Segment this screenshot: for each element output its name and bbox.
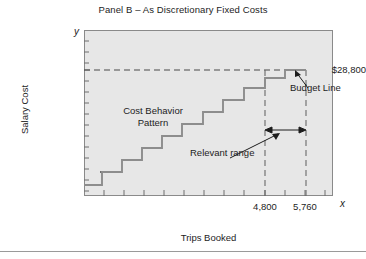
y-axis-ticks [84, 41, 90, 191]
cost-behavior-pattern-label: Cost Behavior Pattern [110, 105, 196, 128]
y-axis-value-label: $28,800 [294, 64, 366, 75]
relevant-range-label: Relevant range [190, 147, 254, 159]
x-axis-value-label-lower: 4,800 [245, 201, 285, 212]
bottom-divider [0, 251, 366, 252]
y-axis-title: Salary Cost [19, 65, 30, 155]
chart-figure: Panel B – As Discretionary Fixed Costs [0, 0, 366, 259]
relevant-range-arrow [265, 127, 306, 133]
x-axis-title: Trips Booked [84, 232, 333, 243]
x-axis-value-label-upper: 5,760 [285, 201, 325, 212]
budget-line-label: Budget Line [290, 82, 341, 94]
cost-behavior-pattern-line1: Cost Behavior [123, 105, 183, 116]
y-axis-letter: y [74, 26, 79, 37]
cost-behavior-pattern-line2: Pattern [138, 117, 169, 128]
x-axis-letter: x [340, 198, 345, 209]
chart-title: Panel B – As Discretionary Fixed Costs [0, 4, 366, 15]
x-axis-ticks [104, 190, 325, 196]
